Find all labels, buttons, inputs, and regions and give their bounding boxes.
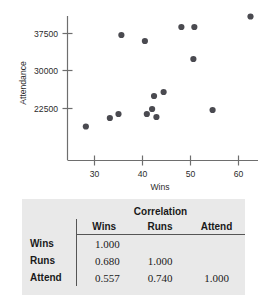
x-tick-label-40: 40 — [138, 169, 148, 179]
x-tick-label-30: 30 — [90, 169, 100, 179]
correlation-table-panel: Correlation Wins Runs Attend Wins1.000Ru… — [22, 199, 245, 295]
x-tick-label-60: 60 — [234, 169, 244, 179]
data-point — [151, 93, 157, 99]
table-cell-runs: 0.740 — [132, 269, 188, 286]
table-row: Runs0.6801.000 — [22, 252, 245, 269]
table-row: Wins1.000 — [22, 235, 245, 253]
data-point — [153, 114, 159, 120]
y-tick-label-22500: 22500 — [34, 104, 58, 114]
data-point — [83, 123, 89, 129]
table-column-header-row: Wins Runs Attend — [22, 219, 245, 235]
data-point — [191, 24, 197, 30]
data-point — [144, 111, 150, 117]
data-point — [149, 106, 155, 112]
table-cell-attend: 1.000 — [188, 269, 245, 286]
x-tick-label-50: 50 — [186, 169, 196, 179]
row-header: Wins — [22, 235, 76, 253]
table-cell-runs — [132, 235, 188, 253]
table-cell-runs: 1.000 — [132, 252, 188, 269]
column-header-blank — [22, 219, 76, 235]
y-tick-label-37500: 37500 — [34, 29, 58, 39]
y-tick-label-30000: 30000 — [34, 66, 58, 76]
correlation-table-body: Wins1.000Runs0.6801.000Attend0.5570.7401… — [22, 235, 245, 287]
data-point — [142, 38, 148, 44]
y-axis-title: Attendance — [18, 61, 28, 105]
table-cell-wins: 0.557 — [76, 269, 132, 286]
column-header-attend: Attend — [188, 219, 245, 235]
row-header: Runs — [22, 252, 76, 269]
column-header-runs: Runs — [132, 219, 188, 235]
data-point — [161, 89, 167, 95]
data-point — [209, 107, 215, 113]
table-span-header-correlation: Correlation — [76, 199, 245, 219]
table-cell-attend — [188, 235, 245, 253]
x-axis-title: Wins — [150, 182, 169, 192]
data-point — [118, 32, 124, 38]
span-header-spacer — [22, 199, 76, 219]
table-cell-wins: 1.000 — [76, 235, 132, 253]
data-points-group — [83, 13, 254, 129]
correlation-table: Correlation Wins Runs Attend Wins1.000Ru… — [22, 199, 245, 286]
data-point — [115, 111, 121, 117]
table-span-header-row: Correlation — [22, 199, 245, 219]
table-cell-attend — [188, 252, 245, 269]
table-row: Attend0.5570.7401.000 — [22, 269, 245, 286]
table-cell-wins: 0.680 — [76, 252, 132, 269]
data-point — [178, 24, 184, 30]
data-point — [190, 56, 196, 62]
scatter-plot-figure: 37500 30000 22500 Attendance 30 40 50 60… — [0, 0, 266, 192]
row-header: Attend — [22, 269, 76, 286]
data-point — [107, 115, 113, 121]
column-header-wins: Wins — [76, 219, 132, 235]
data-point — [247, 13, 253, 19]
scatter-plot-canvas: 37500 30000 22500 Attendance 30 40 50 60… — [0, 0, 266, 192]
